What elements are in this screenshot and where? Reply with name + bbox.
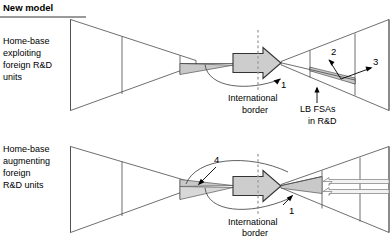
row-label-line-4: units [3,72,23,82]
bottom-flow-number-4: 4 [214,154,219,165]
top-lb-fsa-label-line-1: LB FSAs [300,104,336,114]
top-border-label-line-1: International [228,93,278,103]
row-label-line-3: foreign R&D [3,60,53,70]
bottom-border-label-line-1: International [228,217,278,227]
row-label-line-1: Home-base [3,36,50,46]
row-label-b-line-3: foreign [3,168,31,178]
figure-title: New model [3,2,53,13]
diagram-canvas: New model Home-base exploiting foreign R… [0,0,391,237]
row-label-b-line-2: augmenting [3,156,50,166]
top-flow-number-2: 2 [331,46,336,57]
row-label-line-2: exploiting [3,48,41,58]
top-lb-fsa-label-line-2: in R&D [308,116,337,126]
bottom-border-label-line-2: border [242,228,268,237]
top-flow-number-1: 1 [281,79,286,90]
row-label-b-line-1: Home-base [3,144,50,154]
top-flow-number-3: 3 [373,56,378,67]
top-border-label-line-2: border [242,105,268,115]
figure-new-model: New model Home-base exploiting foreign R… [0,0,391,237]
row-label-b-line-4: R&D units [3,180,44,190]
bottom-flow-number-1: 1 [289,205,294,216]
